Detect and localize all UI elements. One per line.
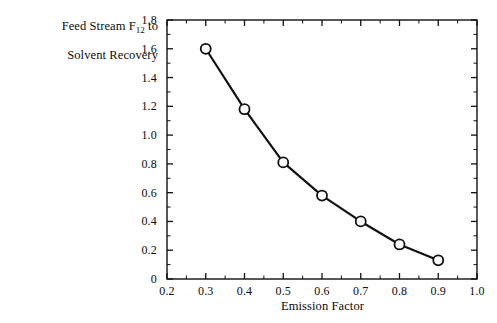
data-point-marker [317,191,327,201]
data-point-marker [278,157,288,167]
plot-area [0,0,497,323]
chart-figure: Feed Stream F12 to Solvent Recovery 00.2… [0,0,497,323]
x-axis-title: Emission Factor [167,299,478,314]
data-point-marker [240,104,250,114]
data-point-marker [356,216,366,226]
data-point-markers [201,44,444,266]
data-series-line [206,49,439,261]
data-point-marker [395,239,405,249]
data-point-marker [433,255,443,265]
data-point-marker [201,44,211,54]
